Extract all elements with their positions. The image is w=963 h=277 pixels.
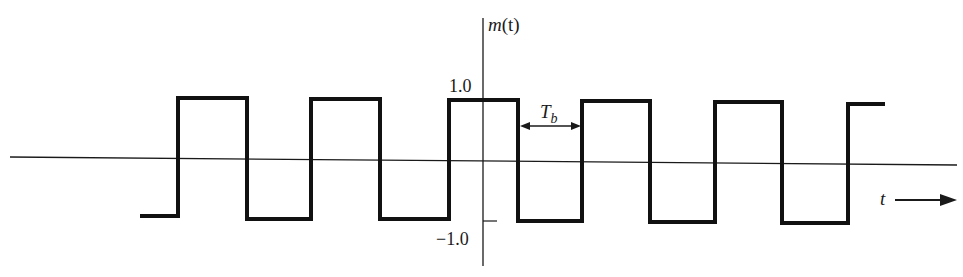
t-direction-arrow	[895, 194, 957, 206]
bipolar-square-wave-diagram: m(t) 1.0 −1.0 Tb t	[0, 0, 963, 277]
x-axis-label: t	[880, 188, 886, 209]
tick-label-top: 1.0	[449, 76, 472, 96]
tb-label: Tb	[540, 101, 558, 126]
square-wave	[140, 98, 885, 223]
tick-label-bottom: −1.0	[436, 229, 469, 249]
y-axis-label: m(t)	[488, 14, 520, 36]
